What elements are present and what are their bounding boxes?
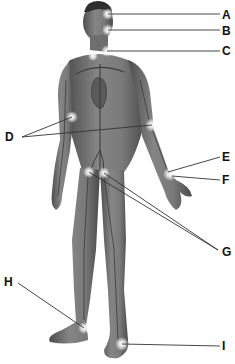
label-d: D <box>5 131 14 143</box>
label-g: G <box>222 246 231 258</box>
label-e: E <box>222 151 230 163</box>
label-b: B <box>222 25 231 37</box>
label-h: H <box>4 276 13 288</box>
label-i: I <box>222 340 225 352</box>
label-f: F <box>222 174 229 186</box>
human-body-figure <box>0 0 235 364</box>
label-c: C <box>222 45 231 57</box>
leader-line-f <box>172 176 220 180</box>
leader-line-e <box>168 157 220 172</box>
leader-line-i <box>122 344 220 346</box>
pulse-points-diagram: A B C D E F G H I <box>0 0 235 364</box>
label-a: A <box>222 9 231 21</box>
